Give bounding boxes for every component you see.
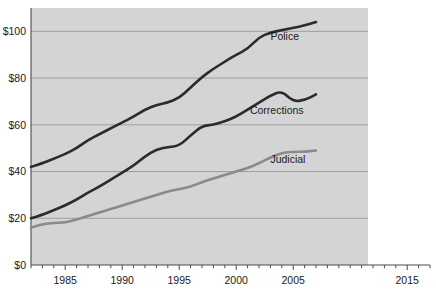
x-axis-tick-label: 2015 [396, 274, 420, 286]
series-label-police: Police [270, 30, 299, 42]
plot-area-background [31, 8, 368, 265]
x-axis-tick-label: 1990 [111, 274, 135, 286]
y-axis-tick-label: $20 [8, 212, 26, 224]
series-label-judicial: Judicial [270, 153, 305, 165]
x-axis-tick-label: 2000 [225, 274, 249, 286]
y-axis-tick-label: $40 [8, 165, 26, 177]
x-axis-tick-label: 2005 [282, 274, 306, 286]
line-chart: $0$20$40$60$80$100 198519901995200020052… [0, 0, 436, 296]
series-label-corrections: Corrections [250, 104, 304, 116]
x-axis-tick-label: 1995 [168, 274, 192, 286]
y-axis-tick-label: $0 [14, 259, 26, 271]
chart-container: $0$20$40$60$80$100 198519901995200020052… [0, 0, 436, 296]
y-axis-tick-label: $100 [3, 25, 27, 37]
y-axis-tick-label: $60 [8, 119, 26, 131]
y-axis-tick-label: $80 [8, 72, 26, 84]
x-axis-tick-label: 1985 [54, 274, 78, 286]
